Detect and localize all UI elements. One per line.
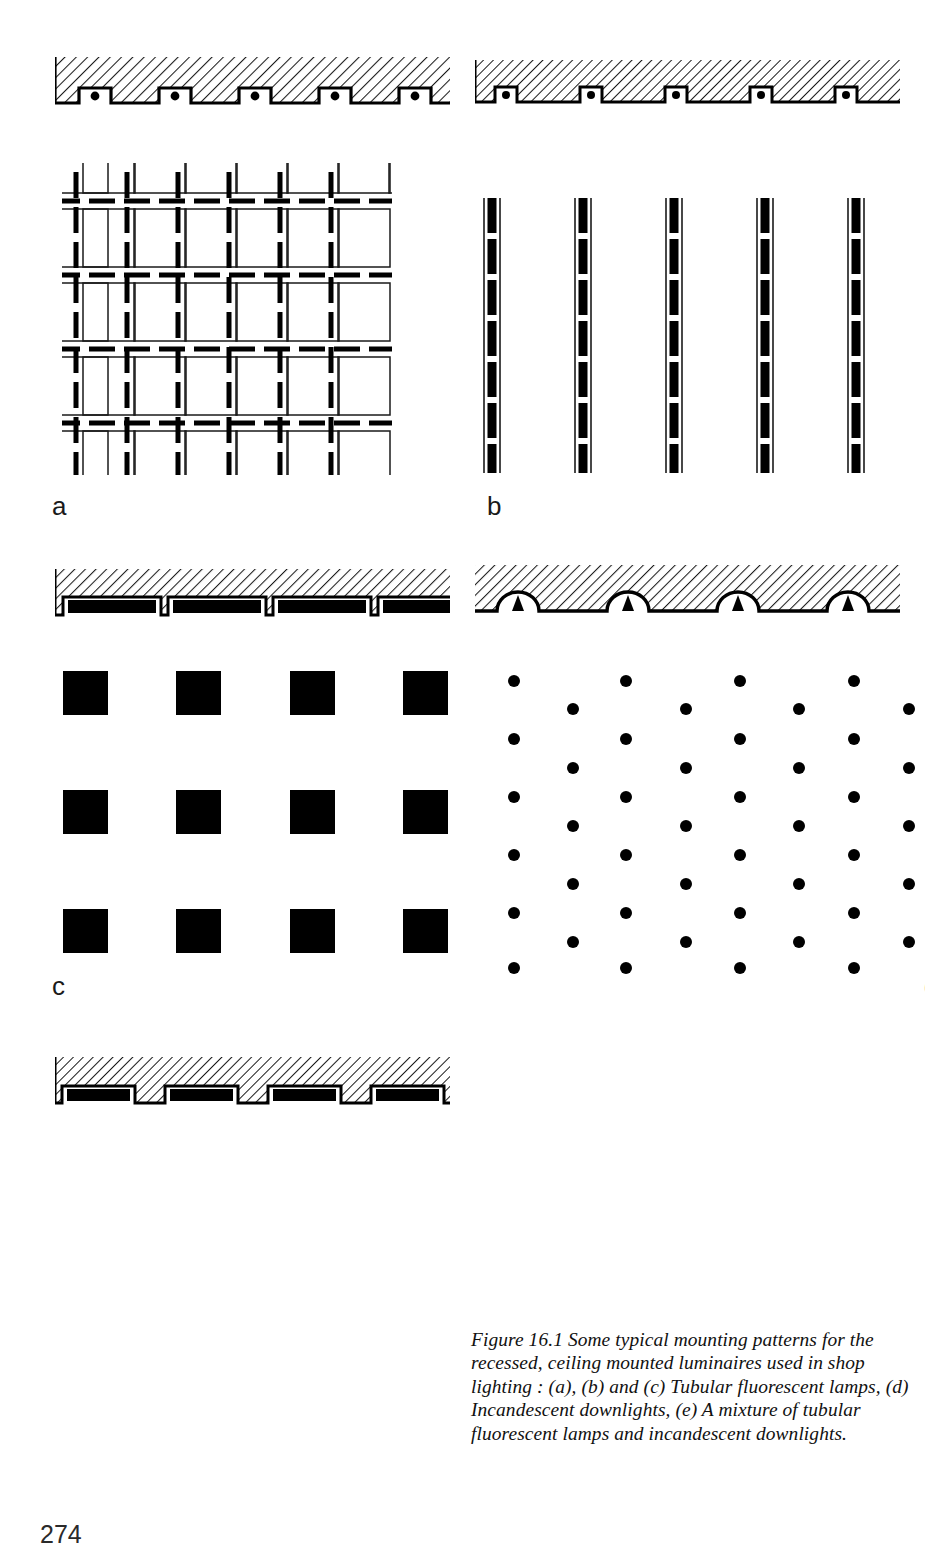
- downlight-dot: [903, 878, 915, 890]
- panel-e: e: [0, 1005, 460, 1562]
- downlight-dot: [848, 907, 860, 919]
- downlight-dot: [680, 936, 692, 948]
- downlight-dot: [680, 820, 692, 832]
- downlight-dot: [508, 675, 520, 687]
- downlight-dot: [903, 820, 915, 832]
- downlight-dot: [620, 907, 632, 919]
- figure-caption: Figure 16.1 Some typical mounting patter…: [471, 1328, 923, 1445]
- downlight-dot: [620, 733, 632, 745]
- panel-c-plan-array: [0, 535, 460, 1005]
- downlight-dot: [734, 733, 746, 745]
- downlight-dot: [793, 762, 805, 774]
- downlight-dot: [734, 849, 746, 861]
- downlight-dot: [680, 878, 692, 890]
- panel-label-c: c: [52, 973, 65, 999]
- downlight-dot: [567, 936, 579, 948]
- downlight-dot: [793, 820, 805, 832]
- downlight-dot: [508, 962, 520, 974]
- downlight-dot: [508, 733, 520, 745]
- downlight-dot: [793, 936, 805, 948]
- downlight-dot: [620, 962, 632, 974]
- luminaire-square: [176, 909, 221, 953]
- panel-b-ceiling-section: [475, 58, 900, 116]
- downlight-dot: [734, 675, 746, 687]
- downlight-dot: [734, 791, 746, 803]
- downlight-dot: [848, 962, 860, 974]
- panel-b: b: [460, 0, 925, 530]
- luminaire-square: [403, 671, 448, 715]
- panel-e-plan-mixed: [0, 1005, 460, 1562]
- luminaire-square: [63, 671, 108, 715]
- luminaire-square: [176, 671, 221, 715]
- downlight-dot: [508, 791, 520, 803]
- downlight-dot: [567, 762, 579, 774]
- panel-a: a: [0, 0, 460, 530]
- downlight-dot: [508, 907, 520, 919]
- downlight-dot: [567, 878, 579, 890]
- luminaire-square: [403, 790, 448, 834]
- downlight-dot: [848, 849, 860, 861]
- downlight-dot: [848, 733, 860, 745]
- panel-label-b: b: [487, 493, 501, 519]
- downlight-dot: [567, 703, 579, 715]
- downlight-dot: [508, 849, 520, 861]
- downlight-dot: [793, 878, 805, 890]
- downlight-dot: [903, 936, 915, 948]
- luminaire-square: [290, 790, 335, 834]
- luminaire-square: [63, 790, 108, 834]
- downlight-dot: [903, 703, 915, 715]
- downlight-dot: [620, 849, 632, 861]
- panel-d-plan-array: [460, 535, 925, 1005]
- downlight-dot: [680, 703, 692, 715]
- panel-b-plan-rows: [478, 198, 898, 473]
- panel-c: c: [0, 535, 460, 1005]
- downlight-dot: [848, 791, 860, 803]
- downlight-dot: [620, 675, 632, 687]
- luminaire-square: [290, 671, 335, 715]
- page-number: 274: [40, 1522, 82, 1547]
- downlight-dot: [734, 962, 746, 974]
- downlight-dot: [567, 820, 579, 832]
- downlight-dot: [620, 791, 632, 803]
- luminaire-square: [176, 790, 221, 834]
- panel-label-a: a: [52, 493, 66, 519]
- luminaire-square: [63, 909, 108, 953]
- downlight-dot: [848, 675, 860, 687]
- panel-d: d: [460, 535, 925, 1005]
- downlight-dot: [680, 762, 692, 774]
- downlight-dot: [734, 907, 746, 919]
- luminaire-square: [403, 909, 448, 953]
- downlight-dot: [793, 703, 805, 715]
- panel-a-plan-grid: [62, 163, 392, 475]
- panel-a-ceiling-section: [55, 55, 450, 117]
- downlight-dot: [903, 762, 915, 774]
- luminaire-square: [290, 909, 335, 953]
